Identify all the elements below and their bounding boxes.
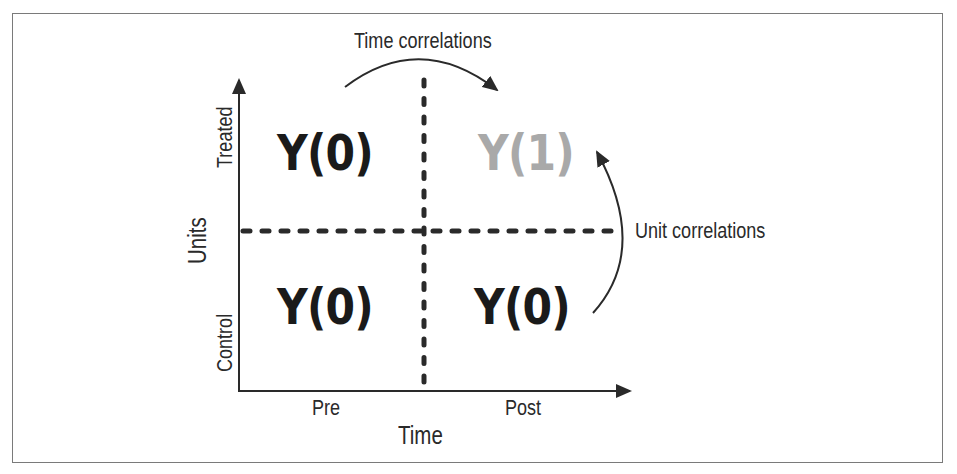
time-correlations-arrow bbox=[345, 59, 497, 90]
cell-treated-post: Y(1) bbox=[478, 124, 574, 182]
cell-control-post: Y(0) bbox=[474, 278, 570, 336]
cell-control-pre: Y(0) bbox=[277, 278, 373, 336]
cell-treated-pre: Y(0) bbox=[277, 124, 373, 182]
diagram-graphics bbox=[0, 0, 957, 474]
y-tick-treated: Treated bbox=[212, 106, 238, 168]
time-correlations-label: Time correlations bbox=[354, 28, 492, 54]
y-axis-label: Units bbox=[183, 217, 212, 264]
x-axis-label: Time bbox=[398, 421, 443, 450]
unit-correlations-label: Unit correlations bbox=[635, 218, 765, 244]
x-tick-pre: Pre bbox=[312, 395, 340, 421]
x-tick-post: Post bbox=[505, 395, 541, 421]
y-tick-control: Control bbox=[212, 314, 238, 372]
